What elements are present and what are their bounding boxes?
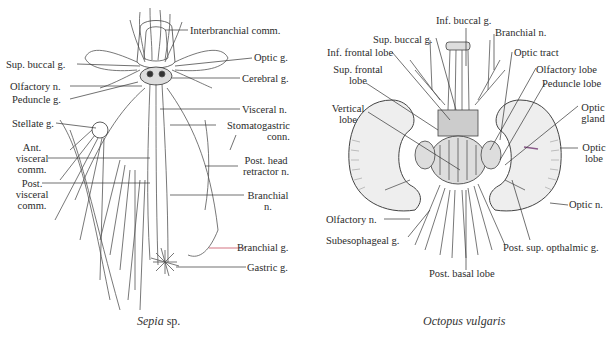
caption-octopus: Octopus vulgaris [423,314,505,329]
label-sup-buccal-g: Sup. buccal g. [6,59,66,70]
label-branchial-g: Branchial g. [237,242,288,253]
label-post-visceral-comm-line3: comm. [10,200,54,211]
label-optic-lobe: Optic lobe [578,142,610,164]
label-stomatogastric-conn-line1: Stomatogastric [218,120,290,131]
label-post-head-retractor-line2: retractor n. [238,166,294,177]
label-peduncle-g: Peduncle g. [12,94,61,105]
label-optic-tract: Optic tract [514,47,559,58]
label-stomatogastric-conn-line2: conn. [218,131,290,142]
label-vertical-lobe: Vertical lobe [326,103,370,125]
label-branchial-n: Branchial n. [244,190,292,212]
label-olfactory-n: Olfactory n. [10,81,61,92]
label-optic-gland-line1: Optic [576,102,610,113]
label-optic-lobe-line1: Optic [578,142,610,153]
label-optic-gland: Optic gland [576,102,610,124]
caption-sepia: Sepia sp. [137,314,180,329]
label-cerebral-g: Cerebral g. [242,73,289,84]
label-visceral-n: Visceral n. [242,104,287,115]
label-optic-n: Optic n. [569,199,603,210]
label-inf-frontal-lobe: Inf. frontal lobe [327,47,393,58]
label-post-visceral-comm-line1: Post. [10,178,54,189]
label-post-visceral-comm-line2: visceral [10,189,54,200]
label-vertical-lobe-line1: Vertical [326,103,370,114]
label-olfactory-lobe: Olfactory lobe [536,64,597,75]
label-sup-frontal-lobe: Sup. frontal lobe [326,64,390,86]
label-vertical-lobe-line2: lobe [326,114,370,125]
label-post-visceral-comm: Post. visceral comm. [10,178,54,211]
label-ant-visceral-comm: Ant. visceral comm. [10,142,54,175]
label-ant-visceral-comm-line2: visceral [10,153,54,164]
label-post-head-retractor-line1: Post. head [238,155,294,166]
caption-sepia-suffix: sp. [164,314,181,328]
label-stomatogastric-conn: Stomatogastric conn. [218,120,290,142]
label-olfactory-n: Olfactory n. [326,214,377,225]
label-ant-visceral-comm-line1: Ant. [10,142,54,153]
label-branchial-n-line2: n. [244,201,292,212]
label-post-head-retractor-n: Post. head retractor n. [238,155,294,177]
label-post-sup-ophthalmic-g: Post. sup. opthalmic g. [503,242,599,253]
label-optic-gland-line2: gland [576,113,610,124]
label-stellate-g: Stellate g. [12,118,54,129]
label-optic-lobe-line2: lobe [578,153,610,164]
label-optic-g: Optic g. [254,52,288,63]
label-peduncle-lobe: Peduncle lobe [542,78,601,89]
sepia-nervous-system-drawing [55,8,228,310]
label-post-basal-lobe: Post. basal lobe [429,268,495,279]
label-sup-buccal-g: Sup. buccal g. [373,34,433,45]
label-branchial-n: Branchial n. [495,27,546,38]
label-gastric-g: Gastric g. [247,262,288,273]
label-inf-buccal-g: Inf. buccal g. [436,15,491,26]
label-ant-visceral-comm-line3: comm. [10,164,54,175]
label-interbranchial-comm: Interbranchial comm. [190,25,280,36]
label-branchial-n-line1: Branchial [244,190,292,201]
caption-sepia-genus: Sepia [137,314,164,328]
label-subesophageal-g: Subesophageal g. [326,235,400,246]
label-sup-frontal-lobe-line2: lobe [326,75,390,86]
label-sup-frontal-lobe-line1: Sup. frontal [326,64,390,75]
